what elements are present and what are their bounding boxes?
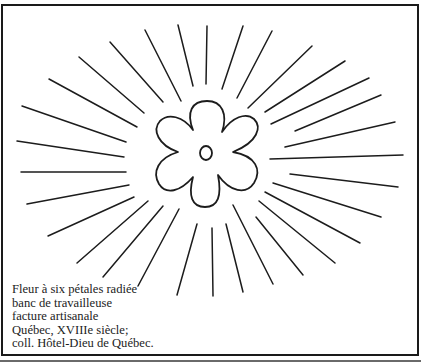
six-petal-flower bbox=[156, 101, 258, 207]
caption-line-object: banc de travailleuse bbox=[12, 297, 154, 311]
caption-line-origin: Québec, XVIIIe siècle; bbox=[12, 324, 154, 338]
flower-center bbox=[200, 146, 212, 160]
flower-outline bbox=[156, 101, 258, 207]
rays bbox=[17, 25, 403, 296]
caption-line-title: Fleur à six pétales radiée bbox=[12, 283, 154, 297]
caption-line-collection: coll. Hôtel-Dieu de Québec. bbox=[12, 337, 154, 351]
caption-line-technique: facture artisanale bbox=[12, 310, 154, 324]
figure-caption: Fleur à six pétales radiée banc de trava… bbox=[12, 283, 154, 351]
